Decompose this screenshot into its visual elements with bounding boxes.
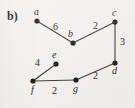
graph-node-f [30, 78, 35, 83]
graph-node-c [112, 19, 117, 24]
node-label-e: e [52, 50, 56, 60]
node-label-a: a [34, 7, 39, 17]
edge-weight-d-g: 2 [93, 71, 98, 81]
graph-node-e [53, 61, 58, 66]
edge-weight-f-e: 4 [35, 58, 40, 68]
edge-weight-a-b: 6 [53, 22, 58, 32]
graph-node-g [73, 77, 78, 82]
graph-node-a [34, 18, 39, 23]
edge-weight-c-d: 3 [120, 37, 125, 47]
node-label-d: d [112, 66, 117, 76]
node-label-g: g [73, 84, 78, 94]
node-label-b: b [68, 29, 73, 39]
node-label-c: c [112, 8, 116, 18]
graph-node-b [70, 40, 75, 45]
graph-figure: b) 623224abcdefg [0, 0, 135, 108]
node-label-f: f [31, 85, 34, 95]
edges-layer [33, 21, 115, 81]
edge-weight-b-c: 2 [93, 21, 98, 31]
graph-edge-g-f [33, 80, 76, 81]
edge-weight-g-f: 2 [52, 86, 57, 96]
